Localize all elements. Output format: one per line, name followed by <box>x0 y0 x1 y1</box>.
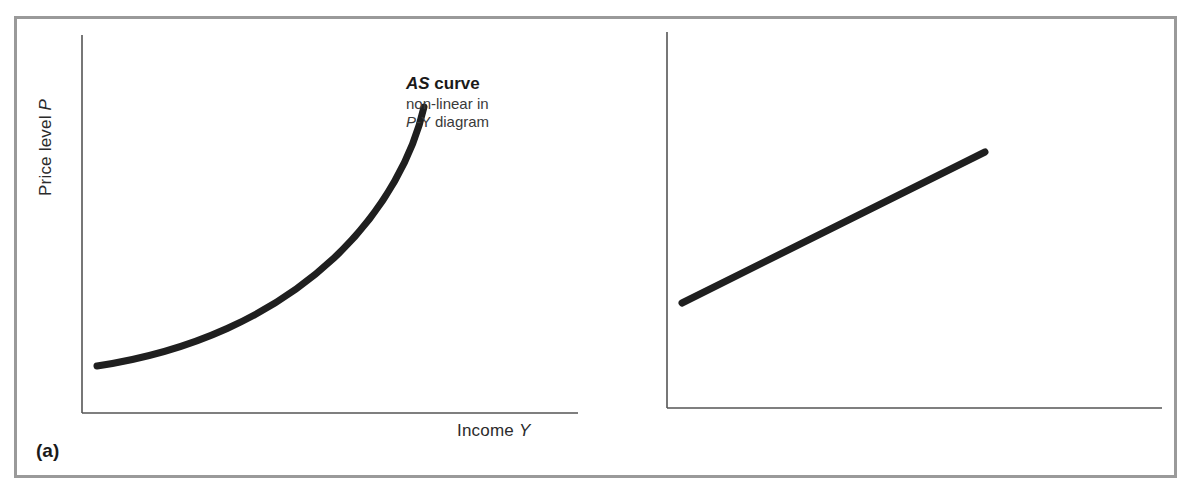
curve-annotation-a-line2: P-Y diagram <box>406 113 489 131</box>
as-curve-a <box>97 107 424 366</box>
curve-annotation-a-line1: non-linear in <box>406 95 489 113</box>
x-axis-title-a: Income Y <box>457 421 530 441</box>
panel-label-a: (a) <box>36 440 59 462</box>
panel-a: Price level P Income Y AS curve non-line… <box>0 0 600 499</box>
figure-container: Price level P Income Y AS curve non-line… <box>0 0 1195 499</box>
curve-annotation-a-line2-variable: P <box>406 113 416 130</box>
panel-b: Logarithm of price level p Income Y AS c… <box>595 0 1195 499</box>
curve-annotation-a-title: AS curve <box>406 74 489 94</box>
x-axis-title-a-text: Income <box>457 421 519 440</box>
x-axis-title-a-variable: Y <box>519 421 531 440</box>
as-curve-b <box>682 152 985 303</box>
y-axis-title-a-variable: P <box>36 99 55 111</box>
curve-annotation-a-name: AS <box>406 74 430 93</box>
curve-annotation-a: AS curve non-linear in P-Y diagram <box>406 74 489 131</box>
curve-annotation-a-word: curve <box>430 74 480 93</box>
y-axis-title-a-text: Price level <box>36 110 55 196</box>
y-axis-title-a: Price level P <box>36 99 56 196</box>
curve-annotation-a-line2-rest: -Y diagram <box>416 113 489 130</box>
plot-b <box>595 0 1195 499</box>
